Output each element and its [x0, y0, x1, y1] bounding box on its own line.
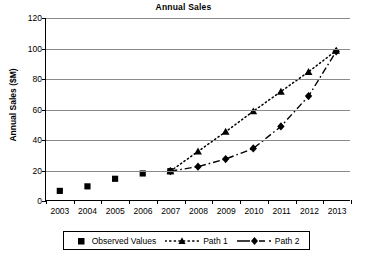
gridline	[46, 171, 350, 172]
chart-title: Annual Sales	[0, 2, 367, 12]
x-axis-tick-label: 2012	[300, 206, 319, 216]
legend-label-path-2: Path 2	[275, 236, 300, 246]
plot-area: 0204060801001202003200420052006200720082…	[45, 18, 350, 201]
gridline	[46, 110, 350, 111]
legend-item-path-2: Path 2	[237, 235, 300, 247]
x-axis-tick-label: 2010	[244, 206, 263, 216]
square-data-marker	[112, 176, 118, 182]
legend-item-observed-values: Observed Values	[74, 235, 157, 247]
gridline	[46, 79, 350, 80]
dotted-triangle-icon	[165, 235, 199, 247]
x-axis-tick-mark	[185, 200, 186, 204]
y-axis-tick-label: 60	[33, 105, 42, 114]
y-axis-tick-label: 40	[33, 136, 42, 145]
x-axis-tick-mark	[351, 200, 352, 204]
x-axis-tick-mark	[240, 200, 241, 204]
x-axis-tick-mark	[212, 200, 213, 204]
y-axis-tick-label: 120	[28, 14, 42, 23]
gridline	[46, 18, 350, 19]
chart-legend: Observed Values Path 1 Path 2	[63, 231, 310, 250]
x-axis-tick-mark	[74, 200, 75, 204]
x-axis-tick-mark	[323, 200, 324, 204]
x-axis-tick-mark	[129, 200, 130, 204]
y-axis-tick-mark	[42, 79, 46, 80]
y-axis-title: Annual Sales ($M)	[8, 30, 18, 180]
y-axis-tick-mark	[42, 110, 46, 111]
x-axis-tick-label: 2011	[273, 206, 291, 216]
x-axis-tick-mark	[268, 200, 269, 204]
legend-item-path-1: Path 1	[165, 235, 228, 247]
gridline	[46, 140, 350, 141]
y-axis-tick-label: 20	[33, 166, 42, 175]
y-axis-tick-mark	[42, 18, 46, 19]
triangle-data-marker	[277, 88, 285, 95]
diamond-data-marker	[222, 155, 229, 163]
series-observed-values	[57, 168, 174, 194]
x-axis-tick-label: 2004	[78, 206, 97, 216]
legend-label-observed-values: Observed Values	[92, 236, 157, 246]
x-axis-tick-label: 2009	[217, 206, 236, 216]
x-axis-tick-mark	[157, 200, 158, 204]
y-axis-tick-mark	[42, 140, 46, 141]
gridline	[46, 49, 350, 50]
y-axis-tick-label: 80	[33, 75, 42, 84]
x-axis-tick-label: 2005	[106, 206, 125, 216]
x-axis-tick-mark	[46, 200, 47, 204]
triangle-data-marker	[249, 107, 257, 114]
annual-sales-chart: Annual Sales Annual Sales ($M) 020406080…	[0, 0, 367, 261]
square-data-marker	[84, 183, 90, 189]
square-data-marker	[57, 188, 63, 194]
x-axis-tick-label: 2013	[328, 206, 347, 216]
y-axis-tick-mark	[42, 49, 46, 50]
square-marker-icon	[74, 235, 88, 247]
dashdot-diamond-icon	[237, 235, 271, 247]
x-axis-tick-label: 2008	[189, 206, 208, 216]
y-axis-tick-label: 100	[28, 44, 42, 53]
x-axis-tick-label: 2003	[50, 206, 69, 216]
x-axis-tick-label: 2007	[161, 206, 180, 216]
y-axis-tick-label: 0	[37, 197, 42, 206]
x-axis-tick-mark	[296, 200, 297, 204]
x-axis-tick-label: 2006	[134, 206, 153, 216]
x-axis-tick-mark	[101, 200, 102, 204]
triangle-data-marker	[305, 68, 313, 75]
legend-label-path-1: Path 1	[203, 236, 228, 246]
y-axis-tick-mark	[42, 171, 46, 172]
diamond-data-marker	[194, 163, 201, 171]
